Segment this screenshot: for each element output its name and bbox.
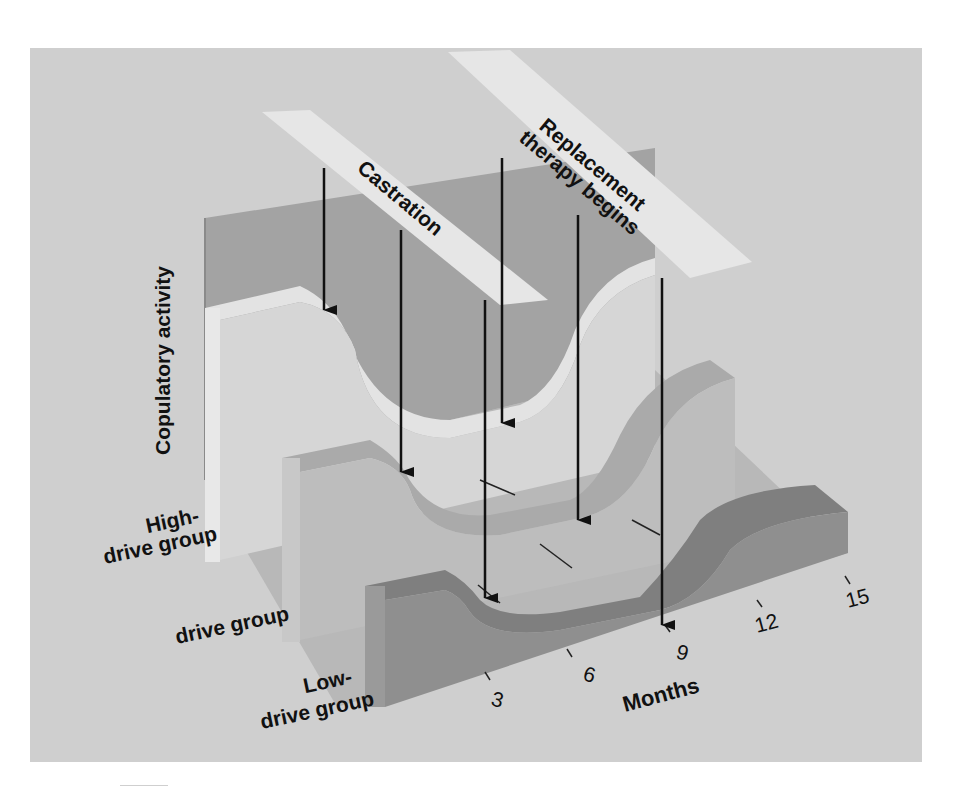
x-tick-6: 6	[581, 662, 598, 687]
y-axis-label: Copulatory activity	[151, 266, 174, 455]
x-tick-15: 15	[843, 584, 872, 612]
x-tick-3: 3	[489, 687, 506, 712]
chart-3d-ribbons: 3 6 9 12 15 Months Copulatory activity H…	[0, 0, 955, 786]
x-axis-label: Months	[620, 672, 702, 716]
group-label-medium-2: drive group	[173, 601, 291, 648]
x-tick-12: 12	[752, 609, 781, 637]
x-tick-9: 9	[674, 640, 691, 665]
